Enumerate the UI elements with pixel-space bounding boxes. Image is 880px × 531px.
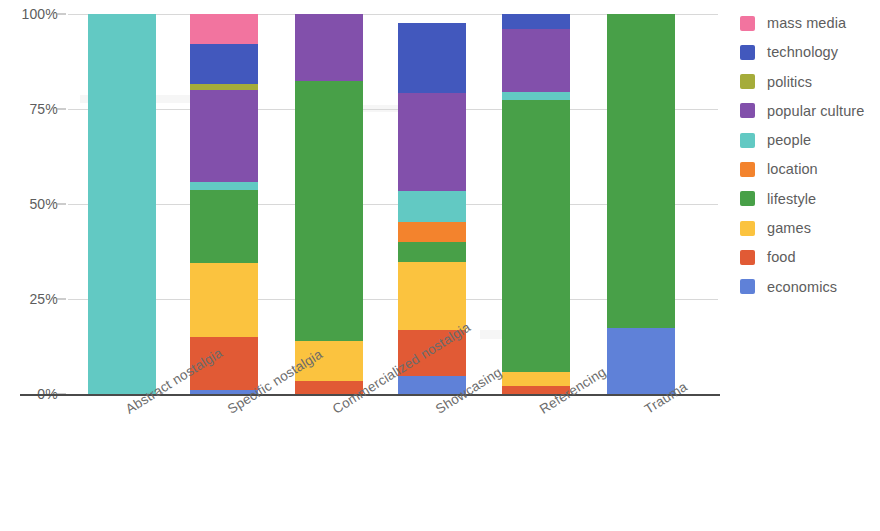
bar-segment[interactable] [295, 81, 363, 341]
legend-item[interactable]: food [740, 244, 880, 270]
legend-item[interactable]: mass media [740, 10, 880, 36]
color-swatch-icon [740, 103, 755, 118]
color-swatch-icon [740, 279, 755, 294]
bar-segment[interactable] [190, 90, 258, 182]
legend-item-label: technology [767, 44, 838, 60]
bar-segment[interactable] [295, 14, 363, 81]
bar-stack[interactable] [295, 14, 363, 394]
legend-item[interactable]: politics [740, 69, 880, 95]
bar-segment[interactable] [502, 29, 570, 92]
legend-item[interactable]: people [740, 127, 880, 153]
bar-segment[interactable] [607, 14, 675, 328]
bar-segment[interactable] [502, 92, 570, 100]
bar-segment[interactable] [190, 190, 258, 263]
legend-item-label: politics [767, 74, 812, 90]
color-swatch-icon [740, 74, 755, 89]
bar-segment[interactable] [398, 93, 466, 191]
color-swatch-icon [740, 250, 755, 265]
legend-item[interactable]: popular culture [740, 98, 880, 124]
bar-segment[interactable] [190, 14, 258, 44]
legend: mass mediatechnologypoliticspopular cult… [740, 10, 880, 303]
legend-item[interactable]: economics [740, 274, 880, 300]
y-axis-tick-label: 100% [6, 6, 58, 22]
bar-segment[interactable] [502, 100, 570, 372]
bar-segment[interactable] [190, 182, 258, 190]
legend-item-label: lifestyle [767, 191, 816, 207]
y-axis-tick-label: 25% [6, 291, 58, 307]
legend-item-label: popular culture [767, 103, 864, 119]
legend-item[interactable]: lifestyle [740, 186, 880, 212]
bar-segment[interactable] [398, 222, 466, 242]
legend-item-label: games [767, 220, 811, 236]
color-swatch-icon [740, 162, 755, 177]
color-swatch-icon [740, 191, 755, 206]
legend-item[interactable]: location [740, 156, 880, 182]
y-axis-tick-mark [56, 204, 66, 205]
legend-item[interactable]: technology [740, 39, 880, 65]
bar-segment[interactable] [190, 263, 258, 337]
stacked-bar-chart: 0%25%50%75%100% Abstract nostalgiaSpecif… [0, 0, 880, 531]
y-axis-tick-mark [56, 14, 66, 15]
color-swatch-icon [740, 45, 755, 60]
legend-item-label: food [767, 249, 796, 265]
bar-segment[interactable] [398, 23, 466, 93]
bar-segment[interactable] [398, 191, 466, 222]
bar-segment[interactable] [398, 242, 466, 263]
y-axis-tick-label: 50% [6, 196, 58, 212]
legend-item-label: location [767, 161, 818, 177]
legend-item-label: economics [767, 279, 837, 295]
legend-item-label: mass media [767, 15, 846, 31]
bar-segment[interactable] [88, 14, 156, 394]
bar-stack[interactable] [607, 14, 675, 394]
y-axis-tick-mark [56, 299, 66, 300]
bar-segment[interactable] [398, 262, 466, 330]
bar-segment[interactable] [190, 84, 258, 90]
bar-stack[interactable] [190, 14, 258, 394]
legend-item-label: people [767, 132, 811, 148]
bar-segment[interactable] [190, 44, 258, 84]
bar-stack[interactable] [502, 14, 570, 394]
y-axis-tick-mark [56, 109, 66, 110]
bar-segment[interactable] [502, 372, 570, 386]
y-axis: 0%25%50%75%100% [0, 14, 58, 394]
legend-item[interactable]: games [740, 215, 880, 241]
color-swatch-icon [740, 133, 755, 148]
color-swatch-icon [740, 221, 755, 236]
bar-segment[interactable] [607, 328, 675, 395]
y-axis-tick-label: 75% [6, 101, 58, 117]
plot-area [68, 14, 718, 394]
bar-stack[interactable] [88, 14, 156, 394]
bar-segment[interactable] [502, 14, 570, 29]
color-swatch-icon [740, 16, 755, 31]
